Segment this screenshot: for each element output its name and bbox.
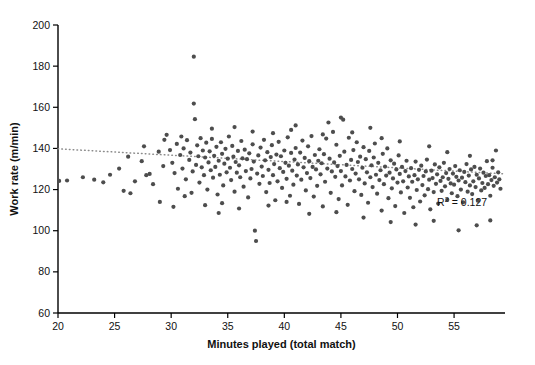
data-point	[189, 191, 193, 195]
data-point	[467, 173, 471, 177]
data-point	[380, 208, 384, 212]
data-point	[260, 164, 264, 168]
data-point	[429, 169, 433, 173]
data-point	[300, 139, 304, 143]
data-point	[407, 174, 411, 178]
data-point	[249, 167, 253, 171]
data-point	[466, 190, 470, 194]
data-point	[252, 159, 256, 163]
data-point	[475, 173, 479, 177]
data-point	[351, 148, 355, 152]
data-point	[444, 171, 448, 175]
data-point	[232, 125, 236, 129]
data-point	[393, 204, 397, 208]
data-point	[209, 168, 213, 172]
data-point	[322, 152, 326, 156]
data-point	[307, 159, 311, 163]
data-point	[416, 177, 420, 181]
data-point	[263, 158, 267, 162]
data-point	[215, 192, 219, 196]
data-point	[157, 150, 161, 154]
data-point	[395, 180, 399, 184]
data-point	[488, 194, 492, 198]
data-point	[168, 148, 172, 152]
data-point	[358, 155, 362, 159]
data-point	[356, 160, 360, 164]
data-point	[165, 133, 169, 137]
data-point	[394, 167, 398, 171]
data-point	[377, 178, 381, 182]
data-point	[311, 165, 315, 169]
data-point	[201, 148, 205, 152]
x-tick-label: 50	[392, 320, 404, 332]
data-point	[374, 173, 378, 177]
data-point	[280, 186, 284, 190]
data-point	[412, 173, 416, 177]
data-point	[230, 144, 234, 148]
data-point	[223, 147, 227, 151]
data-point	[391, 176, 395, 180]
data-point	[269, 155, 273, 159]
data-point	[488, 218, 492, 222]
data-point	[411, 205, 415, 209]
data-point	[406, 185, 410, 189]
data-point	[368, 175, 372, 179]
data-point	[494, 148, 498, 152]
data-point	[420, 183, 424, 187]
x-tick-label: 55	[448, 320, 460, 332]
data-point	[399, 190, 403, 194]
data-point	[278, 166, 282, 170]
data-point	[425, 157, 429, 161]
data-point	[451, 171, 455, 175]
data-point	[453, 164, 457, 168]
x-axis-title: Minutes played (total match)	[207, 338, 356, 350]
data-point	[339, 115, 343, 119]
data-point	[316, 159, 320, 163]
data-point	[218, 173, 222, 177]
data-point	[403, 169, 407, 173]
data-point	[231, 155, 235, 159]
data-point	[212, 154, 216, 158]
data-point	[459, 187, 463, 191]
data-point	[424, 169, 428, 173]
data-point	[273, 198, 277, 202]
data-point	[331, 130, 335, 134]
data-point	[387, 171, 391, 175]
data-point	[427, 144, 431, 148]
data-point	[179, 134, 183, 138]
data-point	[329, 191, 333, 195]
data-point	[398, 172, 402, 176]
data-point	[297, 202, 301, 206]
data-point	[214, 145, 218, 149]
data-point	[471, 179, 475, 183]
data-point	[371, 185, 375, 189]
data-point	[430, 176, 434, 180]
data-point	[490, 166, 494, 170]
data-point	[192, 55, 196, 59]
data-point	[360, 166, 364, 170]
data-point	[288, 194, 292, 198]
data-point	[350, 130, 354, 134]
data-point	[373, 141, 377, 145]
data-point	[301, 165, 305, 169]
data-point	[213, 165, 217, 169]
data-point	[372, 155, 376, 159]
data-point	[197, 180, 201, 184]
data-point	[194, 163, 198, 167]
data-point	[175, 142, 179, 146]
data-point	[193, 117, 197, 121]
data-point	[480, 181, 484, 185]
data-point	[236, 149, 240, 153]
data-point	[389, 220, 393, 224]
data-point	[477, 176, 481, 180]
data-point	[460, 176, 464, 180]
data-point	[161, 164, 165, 168]
data-point	[203, 203, 207, 207]
data-point	[188, 150, 192, 154]
data-point	[468, 154, 472, 158]
data-point	[210, 127, 214, 131]
data-point	[314, 167, 318, 171]
data-point	[257, 182, 261, 186]
data-point	[385, 146, 389, 150]
data-point	[272, 162, 276, 166]
